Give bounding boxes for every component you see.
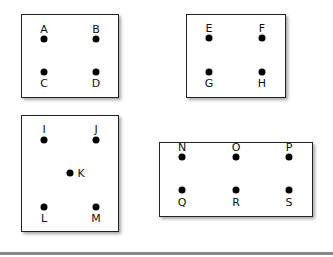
point-f-label: F (259, 23, 265, 34)
group-1-box (21, 14, 119, 98)
point-f-dot (259, 35, 266, 42)
point-n-label: N (178, 142, 186, 153)
point-s-label: S (286, 197, 293, 208)
point-q-label: Q (178, 197, 187, 208)
point-p-dot (286, 154, 293, 161)
point-e-dot (206, 35, 213, 42)
point-m-dot (93, 204, 100, 211)
point-k-label: K (77, 168, 84, 179)
point-i-dot (41, 137, 48, 144)
point-l-label: L (41, 213, 47, 224)
point-o-dot (233, 154, 240, 161)
group-2-box (186, 14, 286, 98)
point-l-dot (41, 204, 48, 211)
point-g-dot (206, 69, 213, 76)
point-k-dot (67, 170, 74, 177)
point-r-dot (233, 187, 240, 194)
point-d-dot (93, 69, 100, 76)
point-i-label: I (42, 124, 45, 135)
bottom-divider (0, 252, 333, 255)
point-p-label: P (286, 142, 293, 153)
point-g-label: G (205, 78, 214, 89)
point-e-label: E (206, 23, 213, 34)
point-o-label: O (232, 142, 241, 153)
point-r-label: R (232, 197, 240, 208)
point-j-label: J (94, 124, 97, 135)
point-m-label: M (91, 213, 101, 224)
point-a-label: A (40, 24, 48, 35)
point-c-dot (41, 69, 48, 76)
point-n-dot (179, 154, 186, 161)
point-d-label: D (92, 78, 100, 89)
point-b-label: B (92, 24, 100, 35)
point-c-label: C (40, 78, 48, 89)
point-h-label: H (258, 78, 266, 89)
point-b-dot (93, 36, 100, 43)
point-s-dot (286, 187, 293, 194)
point-q-dot (179, 187, 186, 194)
point-h-dot (259, 69, 266, 76)
point-a-dot (41, 36, 48, 43)
point-j-dot (93, 137, 100, 144)
